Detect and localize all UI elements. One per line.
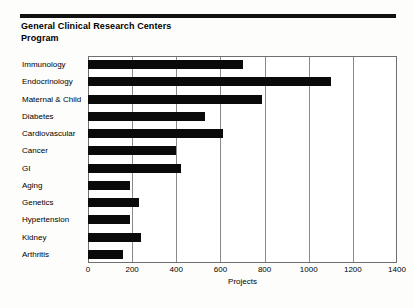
bar[interactable] [88,215,130,224]
bar-row[interactable] [88,108,397,125]
x-tick-label: 0 [86,265,90,274]
bar[interactable] [88,181,130,190]
category-label-text: Kidney [22,233,46,242]
bar[interactable] [88,250,123,259]
category-label: Immunology [0,56,86,73]
category-label: Cancer [0,142,86,159]
category-label: Aging [0,177,86,194]
bar[interactable] [88,129,223,138]
bar-row[interactable] [88,211,397,228]
category-label-text: Cardiovascular [22,129,75,138]
x-tick-label: 200 [125,265,138,274]
bar[interactable] [88,233,141,242]
category-label-text: GI [22,164,30,173]
x-tick-label: 600 [214,265,227,274]
bar[interactable] [88,112,205,121]
bars-layer [88,56,397,263]
bar[interactable] [88,95,262,104]
bar-row[interactable] [88,56,397,73]
bar-row[interactable] [88,125,397,142]
x-tick-label: 1200 [344,265,362,274]
x-axis-title: Projects [88,277,397,286]
category-axis-labels: ImmunologyEndocrinologyMaternal & ChildD… [0,56,86,263]
category-label: Maternal & Child [0,91,86,108]
x-tick-label: 400 [170,265,183,274]
category-label: Cardiovascular [0,125,86,142]
bar-row[interactable] [88,246,397,263]
bar-row[interactable] [88,160,397,177]
bar[interactable] [88,60,243,69]
x-tick-label: 800 [258,265,271,274]
category-label: Genetics [0,194,86,211]
category-label: Endocrinology [0,73,86,90]
bar-row[interactable] [88,142,397,159]
x-tick-label: 1400 [388,265,406,274]
chart-page: General Clinical Research Centers Progra… [0,0,414,308]
bar[interactable] [88,164,181,173]
category-label-text: Cancer [22,146,48,155]
bar-row[interactable] [88,91,397,108]
category-label: Kidney [0,229,86,246]
category-label-text: Maternal & Child [22,95,81,104]
bar-row[interactable] [88,73,397,90]
category-label-text: Immunology [22,60,66,69]
category-label-text: Hypertension [22,215,69,224]
bar-row[interactable] [88,177,397,194]
bar-chart: ImmunologyEndocrinologyMaternal & ChildD… [0,0,414,308]
category-label: Diabetes [0,108,86,125]
category-label: Arthritis [0,246,86,263]
category-label-text: Diabetes [22,112,54,121]
category-label-text: Genetics [22,198,54,207]
bar[interactable] [88,77,331,86]
category-label: GI [0,160,86,177]
category-label-text: Endocrinology [22,77,73,86]
bar[interactable] [88,146,176,155]
category-label: Hypertension [0,211,86,228]
bar-row[interactable] [88,194,397,211]
category-label-text: Arthritis [22,250,49,259]
bar[interactable] [88,198,139,207]
x-tick-label: 1000 [300,265,318,274]
bar-row[interactable] [88,229,397,246]
category-label-text: Aging [22,181,42,190]
x-axis-ticks: 0200400600800100012001400 [88,265,397,277]
